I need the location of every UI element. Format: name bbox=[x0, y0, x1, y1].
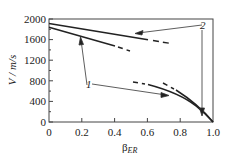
curve-1-lower-dashed bbox=[133, 82, 145, 84]
x-tick-0.4: 0.4 bbox=[108, 126, 122, 138]
x-tick-0.2: 0.2 bbox=[75, 126, 89, 138]
x-tick-labels: 0 0.2 0.4 0.6 0.8 1.0 bbox=[46, 126, 220, 138]
annotation-2: 2 bbox=[200, 19, 206, 31]
x-tick-0.8: 0.8 bbox=[173, 126, 187, 138]
curve-2-lower-dashed bbox=[163, 83, 174, 89]
y-tick-2000: 2000 bbox=[24, 13, 47, 25]
curve-1-upper-dashed bbox=[118, 47, 130, 51]
chart: 0 400 800 1200 1600 2000 0 0.2 0.4 0.6 0… bbox=[0, 0, 230, 159]
x-axis-label: βER bbox=[122, 141, 137, 155]
arrow-head-icon bbox=[135, 31, 143, 36]
y-tick-800: 800 bbox=[30, 75, 47, 87]
y-axis-label: V / m/s bbox=[6, 55, 18, 85]
x-tick-0.6: 0.6 bbox=[141, 126, 155, 138]
leader-2-upper bbox=[138, 25, 202, 33]
curve-2-lower bbox=[176, 90, 213, 122]
curves bbox=[49, 23, 213, 122]
y-axis bbox=[49, 19, 53, 122]
x-axis bbox=[82, 118, 180, 122]
annotation-1: 1 bbox=[86, 78, 92, 90]
arrow-head-icon bbox=[79, 37, 84, 45]
leader-1-lower bbox=[92, 84, 166, 95]
arrow-head-icon bbox=[161, 93, 169, 98]
curve-2-upper-dashed bbox=[153, 41, 171, 44]
y-tick-1200: 1200 bbox=[24, 54, 47, 66]
curve-1-lower bbox=[148, 85, 213, 123]
x-tick-0: 0 bbox=[46, 126, 52, 138]
y-tick-labels: 0 400 800 1200 1600 2000 bbox=[24, 13, 47, 128]
y-tick-1600: 1600 bbox=[24, 33, 47, 45]
x-tick-1.0: 1.0 bbox=[206, 126, 220, 138]
y-tick-400: 400 bbox=[30, 95, 47, 107]
